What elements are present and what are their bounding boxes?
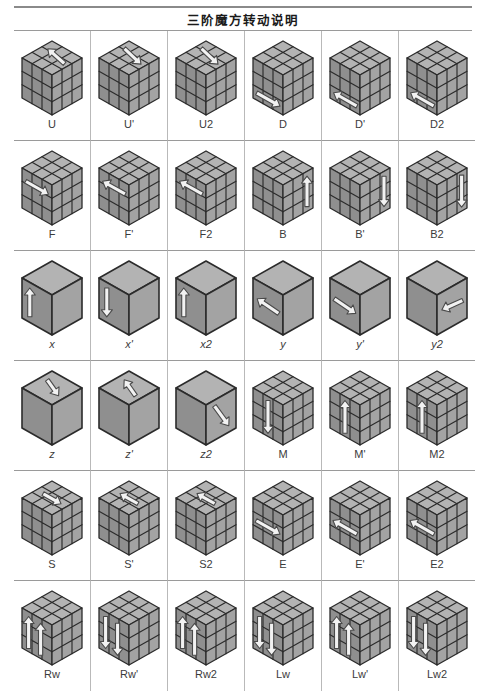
move-label: Rw <box>44 668 60 680</box>
cube-graphic <box>245 33 321 119</box>
move-cell-fprime[interactable]: F' <box>91 141 168 251</box>
cube-graphic <box>322 583 398 669</box>
cube-graphic <box>399 583 475 669</box>
cube-graphic <box>14 583 90 669</box>
cube-graphic <box>168 253 244 339</box>
move-cell-y2[interactable]: y2 <box>399 251 475 361</box>
move-cell-lwprime[interactable]: Lw' <box>322 581 399 691</box>
cube-illustration <box>91 143 167 229</box>
move-cell-eprime[interactable]: E' <box>322 471 399 581</box>
move-cell-d[interactable]: D <box>245 31 322 141</box>
move-cell-e[interactable]: E <box>245 471 322 581</box>
move-label: D' <box>355 118 365 130</box>
cube-graphic <box>399 253 475 339</box>
move-cell-zprime[interactable]: z' <box>91 361 168 471</box>
cube-illustration <box>399 583 475 669</box>
move-cell-uprime[interactable]: U' <box>91 31 168 141</box>
cube-graphic <box>14 143 90 229</box>
move-cell-s[interactable]: S <box>14 471 91 581</box>
cube-graphic <box>245 143 321 229</box>
cube-illustration <box>322 143 398 229</box>
cube-illustration <box>168 473 244 559</box>
cube-graphic <box>245 253 321 339</box>
cube-illustration <box>322 253 398 339</box>
cube-graphic <box>399 143 475 229</box>
move-label: M' <box>354 448 365 460</box>
cube-graphic <box>168 583 244 669</box>
cube-graphic <box>168 363 244 449</box>
move-label: M2 <box>429 448 444 460</box>
move-cell-u2[interactable]: U2 <box>168 31 245 141</box>
cube-illustration <box>14 473 90 559</box>
cube-graphic <box>399 33 475 119</box>
cube-illustration <box>14 363 90 449</box>
cube-illustration <box>322 583 398 669</box>
cube-illustration <box>245 33 321 119</box>
cube-illustration <box>245 473 321 559</box>
move-label: z2 <box>200 448 212 460</box>
cube-illustration <box>91 253 167 339</box>
move-cell-bprime[interactable]: B' <box>322 141 399 251</box>
cube-graphic <box>245 363 321 449</box>
move-cell-sprime[interactable]: S' <box>91 471 168 581</box>
cube-illustration <box>245 583 321 669</box>
cube-graphic <box>322 473 398 559</box>
cube-illustration <box>14 143 90 229</box>
move-label: E2 <box>430 558 443 570</box>
cube-illustration <box>168 143 244 229</box>
move-cell-yprime[interactable]: y' <box>322 251 399 361</box>
move-cell-rw[interactable]: Rw <box>14 581 91 691</box>
cube-graphic <box>14 473 90 559</box>
cube-illustration <box>168 363 244 449</box>
move-cell-x[interactable]: x <box>14 251 91 361</box>
move-cell-y[interactable]: y <box>245 251 322 361</box>
cube-graphic <box>91 363 167 449</box>
move-cell-d2[interactable]: D2 <box>399 31 475 141</box>
cube-graphic <box>91 253 167 339</box>
move-cell-f[interactable]: F <box>14 141 91 251</box>
move-cell-dprime[interactable]: D' <box>322 31 399 141</box>
cube-graphic <box>245 583 321 669</box>
move-cell-lw[interactable]: Lw <box>245 581 322 691</box>
move-label: x' <box>125 338 133 350</box>
move-cell-f2[interactable]: F2 <box>168 141 245 251</box>
move-cell-s2[interactable]: S2 <box>168 471 245 581</box>
move-label: S <box>48 558 55 570</box>
move-cell-b[interactable]: B <box>245 141 322 251</box>
move-cell-m[interactable]: M <box>245 361 322 471</box>
move-label: E <box>279 558 286 570</box>
move-label: z' <box>125 448 133 460</box>
move-cell-u[interactable]: U <box>14 31 91 141</box>
move-cell-lw2[interactable]: Lw2 <box>399 581 475 691</box>
move-cell-b2[interactable]: B2 <box>399 141 475 251</box>
move-cell-xprime[interactable]: x' <box>91 251 168 361</box>
move-cell-z[interactable]: z <box>14 361 91 471</box>
move-label: y2 <box>431 338 443 350</box>
move-cell-e2[interactable]: E2 <box>399 471 475 581</box>
move-label: U' <box>124 118 134 130</box>
move-label: Lw2 <box>427 668 447 680</box>
move-label: D2 <box>430 118 444 130</box>
move-label: F' <box>125 228 134 240</box>
move-cell-x2[interactable]: x2 <box>168 251 245 361</box>
move-label: B2 <box>430 228 443 240</box>
cube-illustration <box>399 363 475 449</box>
cube-illustration <box>399 253 475 339</box>
cube-illustration <box>14 583 90 669</box>
move-cell-rw2[interactable]: Rw2 <box>168 581 245 691</box>
move-label: Rw2 <box>195 668 217 680</box>
move-cell-m2[interactable]: M2 <box>399 361 475 471</box>
cube-notation-sheet: 三阶魔方转动说明 UU'U2DD'D2FF'F2BB'B2xx'x2yy'y2z… <box>0 0 486 694</box>
move-cell-mprime[interactable]: M' <box>322 361 399 471</box>
cube-graphic <box>91 33 167 119</box>
cube-illustration <box>91 473 167 559</box>
cube-graphic <box>322 33 398 119</box>
move-grid: UU'U2DD'D2FF'F2BB'B2xx'x2yy'y2zz'z2MM'M2… <box>14 31 472 691</box>
move-cell-z2[interactable]: z2 <box>168 361 245 471</box>
move-label: y <box>280 338 286 350</box>
move-label: z <box>49 448 55 460</box>
move-label: Lw <box>276 668 290 680</box>
cube-illustration <box>245 253 321 339</box>
cube-graphic <box>322 363 398 449</box>
move-cell-rwprime[interactable]: Rw' <box>91 581 168 691</box>
